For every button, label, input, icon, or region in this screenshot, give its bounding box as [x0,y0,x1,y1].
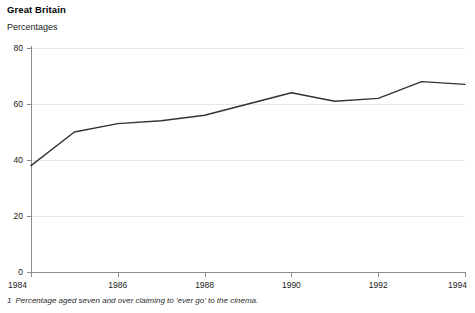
xtick-label-1984: 1984 [8,280,48,290]
line-chart-svg [0,0,475,313]
ytick-label-80: 80 [3,43,23,53]
axes-group [31,46,465,273]
gridlines-group [31,48,465,216]
footnote-marker: 1 [7,296,11,305]
xtick-label-1994: 1994 [427,280,467,290]
chart-figure: Great Britain Percentages 020406080 1984… [0,0,475,313]
plot-area [0,0,475,313]
ytick-label-0: 0 [3,267,23,277]
xtick-label-1992: 1992 [358,280,398,290]
ytick-label-20: 20 [3,211,23,221]
data-series-group [31,82,465,166]
data-line [31,82,465,166]
xtick-label-1988: 1988 [185,280,225,290]
tick-marks-group [27,49,466,278]
ytick-label-60: 60 [3,99,23,109]
footnote: 1Percentage aged seven and over claiming… [7,296,258,305]
xtick-label-1986: 1986 [98,280,138,290]
ytick-label-40: 40 [3,155,23,165]
xtick-label-1990: 1990 [271,280,311,290]
footnote-text: Percentage aged seven and over claiming … [15,296,258,305]
